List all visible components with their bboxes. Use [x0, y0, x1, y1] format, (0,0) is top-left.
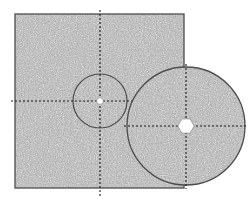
technical-drawing: Technical drawing of square plate and ci… — [0, 0, 250, 202]
drawing-canvas: Technical drawing of square plate and ci… — [0, 0, 250, 202]
small-center-hole — [97, 98, 104, 105]
